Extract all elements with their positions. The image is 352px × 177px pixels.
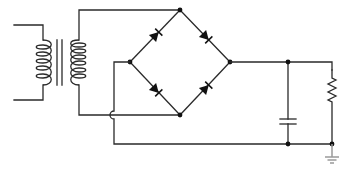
node-cap-top [286,60,291,65]
transformer-primary [14,25,51,100]
node-cap-bottom [286,142,291,147]
node-bridge-top [178,8,183,13]
return-wire [110,62,332,144]
resistor-r1 [328,70,336,146]
circuit-diagram [0,0,352,177]
output-rail [230,62,332,70]
node-bridge-bottom [178,113,183,118]
capacitor-c1 [280,60,296,147]
transformer-core [57,40,62,85]
bridge-rectifier [128,8,233,118]
ground-icon [325,144,339,163]
